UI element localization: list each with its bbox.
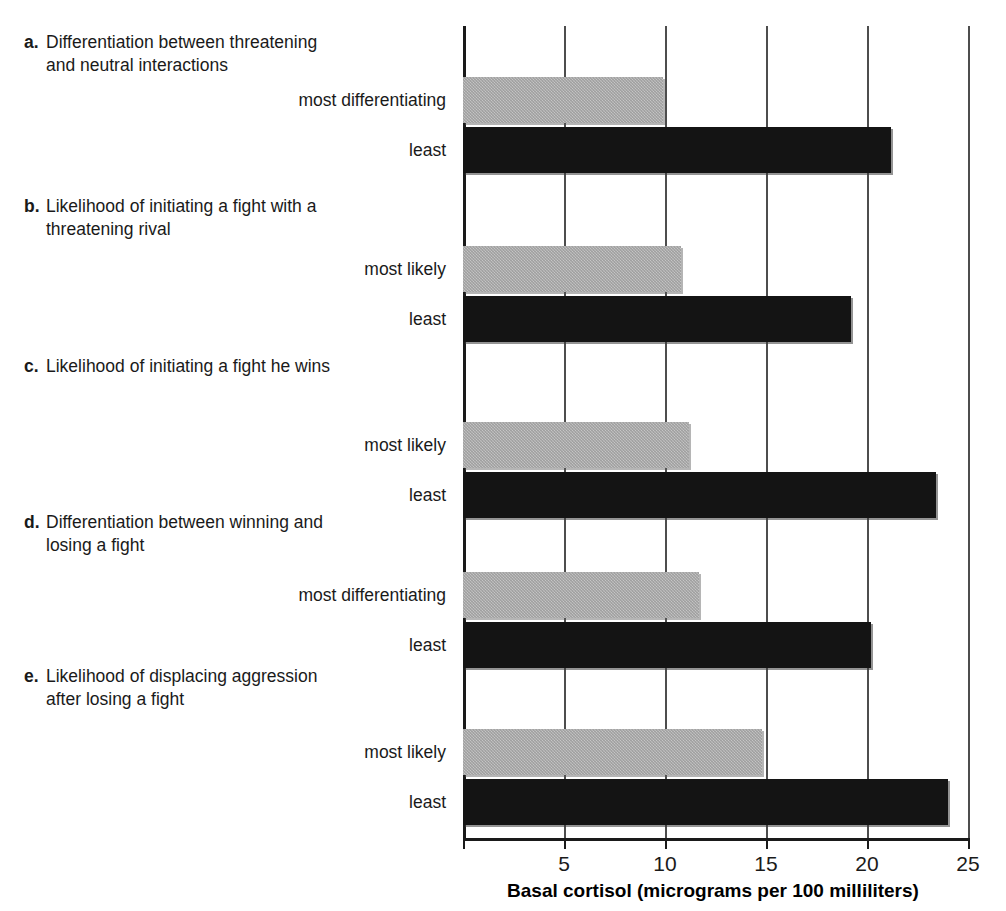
bar-row: least bbox=[0, 296, 1006, 342]
group-title-line2: after losing a fight bbox=[46, 688, 449, 711]
bar-label: most likely bbox=[26, 729, 446, 775]
bar-row: most likely bbox=[0, 246, 1006, 292]
bar-gray bbox=[463, 572, 699, 618]
tick-mark-10 bbox=[665, 838, 667, 849]
group-heading: b.Likelihood of initiating a fight with … bbox=[24, 195, 449, 241]
tick-mark-0 bbox=[463, 838, 465, 849]
tick-label-5: 5 bbox=[534, 852, 594, 876]
group-title-line1: Likelihood of displacing aggression bbox=[46, 666, 317, 686]
bar-row: least bbox=[0, 622, 1006, 668]
bar-label: most differentiating bbox=[26, 572, 446, 618]
group-heading: a.Differentiation between threateningand… bbox=[24, 31, 449, 77]
tick-mark-5 bbox=[564, 838, 566, 849]
bar-black bbox=[463, 779, 948, 825]
bar-row: most likely bbox=[0, 422, 1006, 468]
bar-gray bbox=[463, 77, 663, 123]
group-letter: d. bbox=[24, 511, 46, 534]
bar-label: least bbox=[26, 779, 446, 825]
bar-label: least bbox=[26, 296, 446, 342]
bar-black bbox=[463, 127, 891, 173]
bar-label: least bbox=[26, 127, 446, 173]
group-letter: a. bbox=[24, 31, 46, 54]
bar-label: least bbox=[26, 622, 446, 668]
bar-label: most likely bbox=[26, 246, 446, 292]
bar-row: most differentiating bbox=[0, 572, 1006, 618]
group-title-line1: Likelihood of initiating a fight he wins bbox=[46, 356, 330, 376]
x-axis-line bbox=[463, 838, 970, 841]
tick-mark-25 bbox=[968, 838, 970, 849]
group-letter: c. bbox=[24, 355, 46, 378]
tick-label-25: 25 bbox=[938, 852, 998, 876]
group-title-line1: Likelihood of initiating a fight with a bbox=[46, 196, 316, 216]
group-letter: b. bbox=[24, 195, 46, 218]
group-title-line1: Differentiation between winning and bbox=[46, 512, 323, 532]
group-heading: d.Differentiation between winning andlos… bbox=[24, 511, 449, 557]
group-title-line2: and neutral interactions bbox=[46, 54, 449, 77]
bar-black bbox=[463, 472, 936, 518]
bar-label: most differentiating bbox=[26, 77, 446, 123]
bar-gray bbox=[463, 729, 762, 775]
tick-label-20: 20 bbox=[837, 852, 897, 876]
tick-label-10: 10 bbox=[635, 852, 695, 876]
tick-label-15: 15 bbox=[736, 852, 796, 876]
bar-row: least bbox=[0, 779, 1006, 825]
bar-row: most likely bbox=[0, 729, 1006, 775]
tick-mark-15 bbox=[766, 838, 768, 849]
bar-gray bbox=[463, 422, 689, 468]
tick-mark-20 bbox=[867, 838, 869, 849]
group-heading: c.Likelihood of initiating a fight he wi… bbox=[24, 355, 449, 378]
bar-black bbox=[463, 622, 871, 668]
bar-row: most differentiating bbox=[0, 77, 1006, 123]
x-axis-title: Basal cortisol (micrograms per 100 milli… bbox=[420, 880, 1006, 902]
bar-chart-figure: a.Differentiation between threateningand… bbox=[0, 0, 1006, 911]
group-heading: e.Likelihood of displacing aggressionaft… bbox=[24, 665, 449, 711]
bar-gray bbox=[463, 246, 681, 292]
group-title-line1: Differentiation between threatening bbox=[46, 32, 317, 52]
group-title-line2: threatening rival bbox=[46, 218, 449, 241]
bar-row: least bbox=[0, 127, 1006, 173]
group-letter: e. bbox=[24, 665, 46, 688]
bar-black bbox=[463, 296, 851, 342]
group-title-line2: losing a fight bbox=[46, 534, 449, 557]
bar-label: most likely bbox=[26, 422, 446, 468]
